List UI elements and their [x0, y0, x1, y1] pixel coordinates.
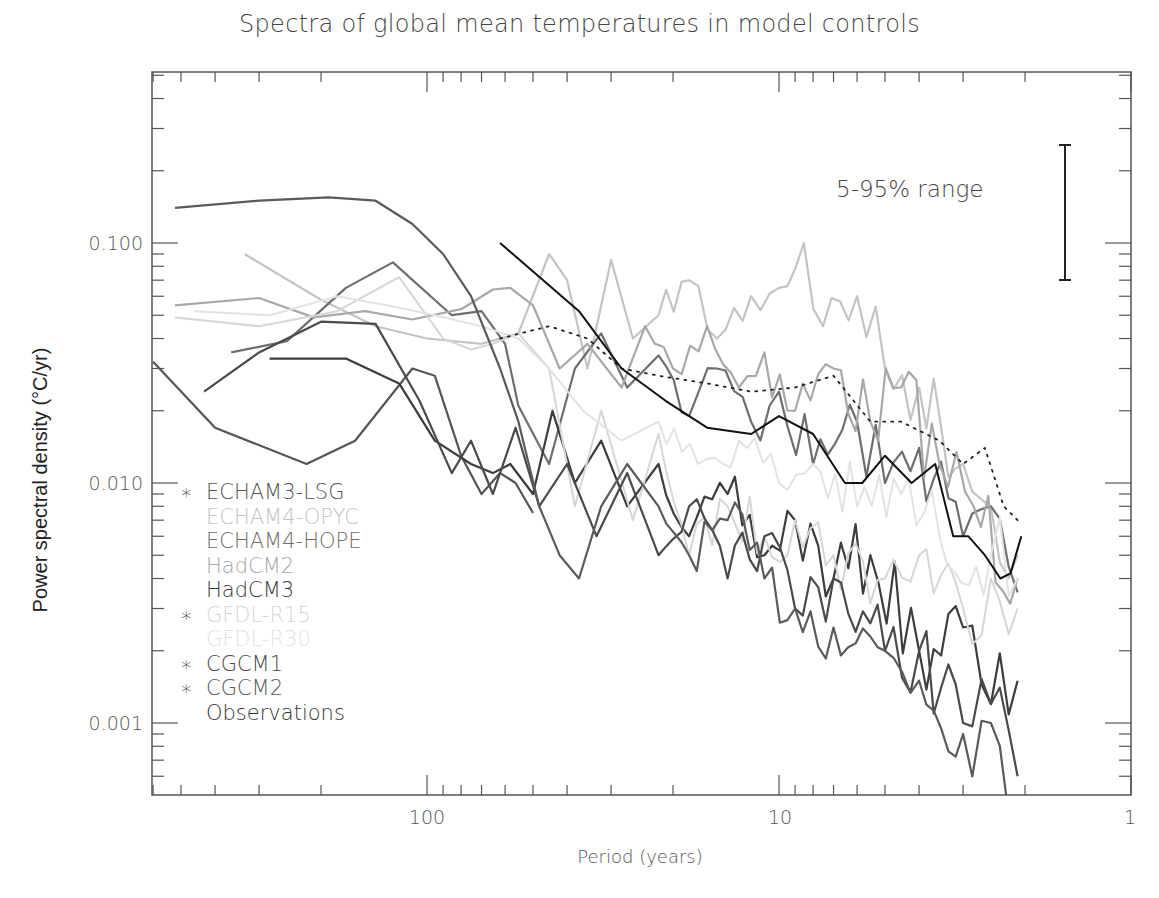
legend-label: GFDL-R30 — [206, 627, 311, 651]
asterisk-marker-icon: ∗ — [180, 603, 193, 628]
legend-item: ∗CGCM1 — [180, 652, 361, 677]
legend-label: GFDL-R15 — [206, 603, 311, 627]
legend-item: ECHAM4-HOPE — [180, 529, 361, 554]
legend-label: ECHAM3-LSG — [206, 480, 344, 504]
series-line-hadcm3 — [270, 359, 1018, 715]
legend-item: GFDL-R30 — [180, 627, 361, 652]
legend-item: ∗CGCM2 — [180, 676, 361, 701]
x-axis-label: Period (years) — [577, 846, 702, 867]
legend-item: HadCM3 — [180, 578, 361, 603]
y-tick-label: 0.010 — [89, 472, 143, 494]
x-tick-label: 10 — [768, 806, 792, 828]
y-tick-label: 0.100 — [89, 232, 143, 254]
series-line-hadcm3-bold-trend- — [500, 243, 1021, 579]
spectra-chart — [0, 0, 1159, 898]
chart-legend: ∗ECHAM3-LSGECHAM4-OPYCECHAM4-HOPEHadCM2H… — [180, 480, 361, 725]
legend-item: ECHAM4-OPYC — [180, 505, 361, 530]
x-tick-label: 100 — [409, 806, 445, 828]
legend-item: HadCM2 — [180, 554, 361, 579]
legend-label: HadCM3 — [206, 578, 294, 602]
legend-label: CGCM1 — [206, 652, 283, 676]
x-tick-label: 1 — [1124, 806, 1136, 828]
y-axis-label: Power spectral density (°C/yr) — [29, 348, 52, 613]
legend-item: ∗GFDL-R15 — [180, 603, 361, 628]
legend-label: ECHAM4-OPYC — [206, 505, 359, 529]
legend-label: Observations — [206, 701, 345, 725]
asterisk-marker-icon: ∗ — [180, 480, 193, 505]
legend-item: ∗ECHAM3-LSG — [180, 480, 361, 505]
asterisk-marker-icon: ∗ — [180, 652, 193, 677]
legend-label: ECHAM4-HOPE — [206, 529, 361, 553]
legend-label: HadCM2 — [206, 554, 294, 578]
asterisk-marker-icon: ∗ — [180, 676, 193, 701]
legend-label: CGCM2 — [206, 676, 283, 700]
y-tick-label: 0.001 — [89, 712, 143, 734]
chart-title: Spectra of global mean temperatures in m… — [0, 10, 1159, 38]
range-annotation-label: 5-95% range — [836, 176, 983, 202]
legend-item: Observations — [180, 701, 361, 726]
